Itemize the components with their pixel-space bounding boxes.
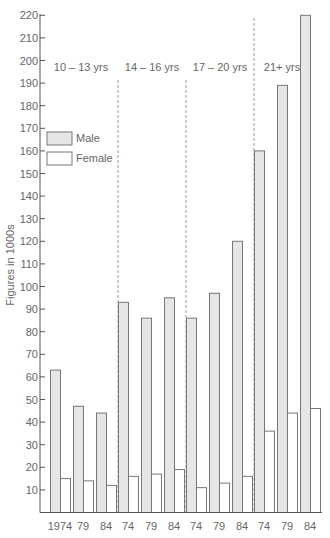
group-label: 14 – 16 yrs bbox=[125, 61, 180, 73]
group-label: 17 – 20 yrs bbox=[193, 61, 248, 73]
y-tick-label: 20 bbox=[26, 461, 38, 473]
bar-female bbox=[107, 485, 117, 512]
x-tick-label: 79 bbox=[281, 520, 293, 532]
y-tick-label: 10 bbox=[26, 484, 38, 496]
x-tick-label: 84 bbox=[100, 520, 112, 532]
bar-male bbox=[187, 318, 197, 512]
bar-male bbox=[51, 370, 61, 512]
bar-female bbox=[311, 409, 321, 513]
x-tick-label: 79 bbox=[77, 520, 89, 532]
y-tick-label: 200 bbox=[20, 55, 38, 67]
group-labels: 10 – 13 yrs14 – 16 yrs17 – 20 yrs21+ yrs bbox=[54, 61, 301, 73]
y-tick-label: 150 bbox=[20, 168, 38, 180]
y-tick-label: 30 bbox=[26, 439, 38, 451]
bar-female bbox=[220, 483, 230, 512]
bar-male bbox=[233, 241, 243, 512]
y-tick-label: 130 bbox=[20, 213, 38, 225]
y-tick-label: 90 bbox=[26, 303, 38, 315]
x-tick-label: 84 bbox=[304, 520, 316, 532]
bar-male bbox=[142, 318, 152, 512]
bar-female bbox=[197, 488, 207, 513]
y-axis: 1020304050607080901001101201301401501601… bbox=[20, 9, 45, 496]
bar-female bbox=[84, 481, 94, 513]
legend-swatch-female bbox=[47, 152, 72, 165]
x-tick-label: 1974 bbox=[48, 520, 72, 532]
bar-male bbox=[255, 151, 265, 513]
bar-female bbox=[265, 431, 275, 512]
bar-male bbox=[278, 85, 288, 512]
x-tick-label: 84 bbox=[236, 520, 248, 532]
bar-male bbox=[74, 406, 84, 512]
bar-female bbox=[129, 476, 139, 512]
group-label: 21+ yrs bbox=[264, 61, 301, 73]
legend: Male Female bbox=[47, 132, 113, 165]
bar-female bbox=[61, 479, 71, 513]
x-tick-label: 79 bbox=[213, 520, 225, 532]
y-tick-label: 50 bbox=[26, 394, 38, 406]
y-tick-label: 210 bbox=[20, 32, 38, 44]
bar-female bbox=[152, 474, 162, 512]
y-tick-label: 70 bbox=[26, 348, 38, 360]
y-tick-label: 100 bbox=[20, 281, 38, 293]
x-tick-label: 84 bbox=[168, 520, 180, 532]
y-tick-label: 140 bbox=[20, 190, 38, 202]
bar-male bbox=[165, 298, 175, 513]
y-tick-label: 160 bbox=[20, 145, 38, 157]
y-tick-label: 60 bbox=[26, 371, 38, 383]
y-tick-label: 110 bbox=[20, 258, 38, 270]
x-tick-label: 74 bbox=[258, 520, 270, 532]
y-tick-label: 170 bbox=[20, 122, 38, 134]
group-label: 10 – 13 yrs bbox=[54, 61, 109, 73]
bar-male bbox=[97, 413, 107, 512]
legend-label-male: Male bbox=[76, 132, 100, 144]
bar-female bbox=[243, 476, 253, 512]
y-tick-label: 120 bbox=[20, 235, 38, 247]
bar-male bbox=[210, 293, 220, 512]
y-tick-label: 190 bbox=[20, 77, 38, 89]
x-axis-labels: 19747984747984747984747984 bbox=[48, 520, 316, 532]
y-tick-label: 80 bbox=[26, 326, 38, 338]
x-tick-label: 79 bbox=[145, 520, 157, 532]
x-tick-label: 74 bbox=[190, 520, 202, 532]
legend-label-female: Female bbox=[76, 152, 113, 164]
bar-chart: 1020304050607080901001101201301401501601… bbox=[0, 0, 330, 538]
bar-female bbox=[175, 470, 185, 513]
y-tick-label: 220 bbox=[20, 9, 38, 21]
y-tick-label: 180 bbox=[20, 100, 38, 112]
x-tick-label: 74 bbox=[122, 520, 134, 532]
y-axis-label: Figures in 1000s bbox=[4, 224, 16, 306]
legend-swatch-male bbox=[47, 132, 72, 145]
bar-male bbox=[301, 15, 311, 512]
y-tick-label: 40 bbox=[26, 416, 38, 428]
bar-female bbox=[288, 413, 298, 512]
bar-male bbox=[119, 302, 129, 512]
